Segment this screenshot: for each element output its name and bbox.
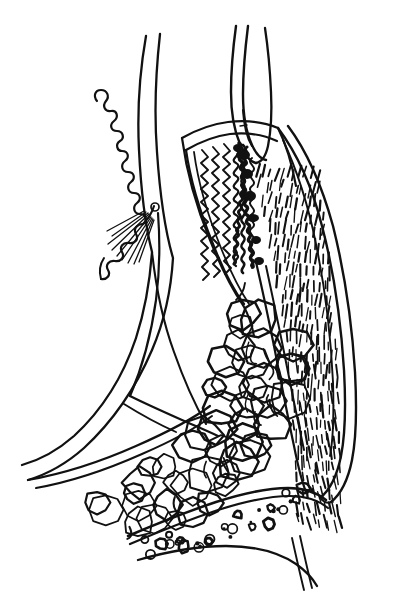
hatch-dash <box>312 444 313 455</box>
hatch-dash <box>311 374 312 386</box>
hatch-dash <box>322 435 323 444</box>
stipple-dot <box>228 535 232 539</box>
stipple-dot <box>257 508 261 512</box>
hatch-dash <box>328 392 329 401</box>
figure-root <box>0 0 411 602</box>
hatch-dash <box>288 240 289 250</box>
hatch-dash <box>303 393 304 400</box>
hatch-dash <box>319 283 320 291</box>
hatch-dash <box>303 456 304 468</box>
hatch-dash <box>326 323 327 331</box>
hatch-dash <box>320 201 321 211</box>
hatch-dash <box>270 219 271 232</box>
hatch-dash <box>299 288 300 302</box>
hatch-dash <box>328 422 330 430</box>
stipple-dot <box>249 521 252 524</box>
hatch-dash <box>298 253 299 262</box>
hatch-dash <box>325 421 326 429</box>
hatch-dash <box>317 320 318 330</box>
stipple-dot <box>198 545 202 549</box>
stipple-dot <box>276 507 280 511</box>
hatch-dash <box>278 222 279 234</box>
hatch-dash <box>282 305 283 315</box>
hatch-dash <box>285 253 286 262</box>
hatch-dash <box>322 404 323 417</box>
hatch-dash <box>317 418 318 429</box>
hatch-dash <box>287 332 288 342</box>
hatch-dash <box>309 405 310 412</box>
hatch-dash <box>310 197 311 206</box>
hatch-dash <box>306 418 307 425</box>
hatch-dash <box>291 320 292 329</box>
hatch-dash <box>324 354 325 364</box>
figure-background <box>0 0 411 602</box>
hatch-dash <box>326 461 327 474</box>
hatch-dash <box>320 229 321 240</box>
hatch-dash <box>305 237 306 249</box>
hatch-dash <box>313 354 314 361</box>
hatch-dash <box>303 284 305 292</box>
hatch-dash <box>305 252 306 262</box>
hatch-dash <box>315 362 316 372</box>
hatch-dash <box>306 224 307 232</box>
hatch-dash <box>276 197 277 208</box>
hatch-dash <box>283 295 284 303</box>
hatch-dash <box>340 493 341 504</box>
hatch-dash <box>318 380 319 389</box>
anatomical-illustration <box>0 0 411 602</box>
hatch-dash <box>337 378 338 388</box>
hatch-dash <box>295 317 296 327</box>
hatch-dash <box>299 322 300 329</box>
hatch-dash <box>276 208 277 216</box>
hatch-dash <box>280 264 281 274</box>
hatch-dash <box>294 209 295 223</box>
hatch-dash <box>277 246 278 260</box>
hatch-dash <box>323 462 324 470</box>
hatch-dash <box>323 212 324 219</box>
hatch-dash <box>298 390 299 404</box>
hatch-dash <box>291 303 292 316</box>
hatch-dash <box>337 505 338 516</box>
hatch-dash <box>276 276 277 288</box>
hatch-dash <box>264 207 265 216</box>
